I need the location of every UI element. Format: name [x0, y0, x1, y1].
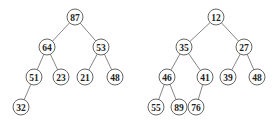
max-heap-node: 23 — [53, 69, 69, 85]
min-heap-node: 35 — [176, 39, 192, 55]
min-heap-node: 39 — [220, 69, 236, 85]
node-label: 12 — [211, 13, 221, 23]
max-heap-node: 53 — [93, 39, 109, 55]
heap-diagram: 876453512321483212352746413948558976 — [0, 0, 276, 122]
min-heap-node: 12 — [208, 9, 224, 25]
min-heap-node: 46 — [159, 69, 175, 85]
node-label: 64 — [42, 43, 52, 53]
node-label: 46 — [162, 73, 172, 83]
edges-layer — [21, 17, 257, 107]
node-label: 87 — [70, 13, 80, 23]
node-label: 39 — [223, 73, 233, 83]
node-label: 53 — [96, 43, 106, 53]
node-label: 23 — [56, 73, 66, 83]
node-label: 76 — [191, 103, 201, 113]
node-label: 55 — [151, 103, 161, 113]
nodes-layer: 876453512321483212352746413948558976 — [13, 9, 265, 115]
min-heap-node: 48 — [249, 69, 265, 85]
node-label: 32 — [16, 103, 26, 113]
min-heap-node: 27 — [236, 39, 252, 55]
max-heap-node: 32 — [13, 99, 29, 115]
min-heap-node: 76 — [188, 99, 204, 115]
max-heap-node: 64 — [39, 39, 55, 55]
min-heap-node: 89 — [171, 99, 187, 115]
max-heap-node: 48 — [107, 69, 123, 85]
min-heap-node: 55 — [148, 99, 164, 115]
max-heap-node: 87 — [67, 9, 83, 25]
node-label: 21 — [80, 73, 90, 83]
node-label: 89 — [174, 103, 184, 113]
min-heap-node: 41 — [197, 69, 213, 85]
max-heap-node: 51 — [26, 69, 42, 85]
node-label: 48 — [252, 73, 262, 83]
node-label: 35 — [179, 43, 189, 53]
max-heap-node: 21 — [77, 69, 93, 85]
node-label: 48 — [110, 73, 120, 83]
node-label: 51 — [29, 73, 39, 83]
node-label: 41 — [200, 73, 210, 83]
node-label: 27 — [239, 43, 249, 53]
